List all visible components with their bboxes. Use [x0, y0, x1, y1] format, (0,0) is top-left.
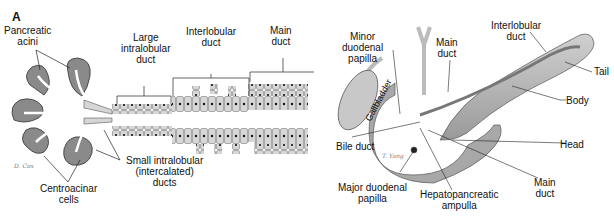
artist-signature-right: T. Yang: [382, 152, 404, 159]
label-interlobular-duct-right: Interlobular duct: [491, 20, 541, 42]
label-main-duct-bottom: Main duct: [534, 177, 556, 199]
label-major-duodenal-papilla: Major duodenal papilla: [338, 182, 407, 204]
label-centroacinar-cells: Centroacinar cells: [40, 183, 97, 205]
interlobular-duct-top: [172, 96, 248, 112]
interlobular-duct-bottom: [172, 128, 248, 144]
panel-label: A: [12, 10, 21, 24]
label-tail: Tail: [594, 66, 609, 77]
large-intralobular-duct-top: [112, 104, 172, 114]
label-small-intralobular-ducts: Small intralobular (intercalated) ducts: [126, 155, 203, 188]
label-main-duct-left: Main duct: [270, 25, 292, 47]
label-pancreatic-acini: Pancreatic acini: [4, 25, 51, 47]
label-large-intralobular-duct: Large intralobular duct: [121, 32, 170, 65]
label-hepatopancreatic-ampulla: Hepatopancreatic ampulla: [420, 189, 498, 211]
large-intralobular-duct-bottom: [112, 126, 172, 136]
label-main-duct-top: Main duct: [436, 37, 458, 59]
label-minor-duodenal-papilla: Minor duodenal papilla: [342, 31, 383, 64]
label-interlobular-duct-left: Interlobular duct: [186, 26, 236, 48]
label-body: Body: [566, 95, 589, 106]
label-head: Head: [560, 139, 584, 150]
artist-signature-left: D. Cox: [14, 162, 34, 169]
label-bile-duct: Bile duct: [336, 141, 374, 152]
pancreatic-acini: [12, 58, 92, 165]
